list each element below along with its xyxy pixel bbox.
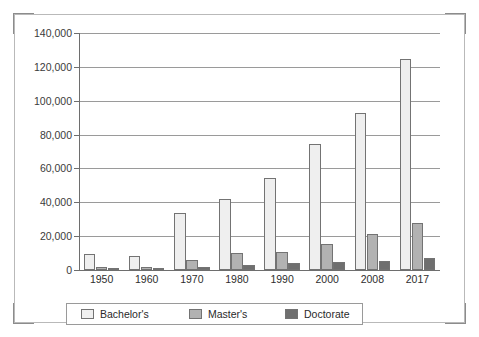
x-axis-tick-label: 1980 bbox=[225, 273, 248, 285]
y-axis-tick-label: 80,000 bbox=[40, 129, 72, 141]
bar[interactable] bbox=[321, 244, 333, 270]
bar[interactable] bbox=[186, 260, 198, 270]
bar[interactable] bbox=[141, 267, 153, 270]
chart-legend: Bachelor'sMaster'sDoctorate bbox=[66, 303, 363, 325]
masters-swatch-icon bbox=[189, 309, 202, 319]
bar[interactable] bbox=[108, 268, 120, 270]
bar[interactable] bbox=[400, 59, 412, 270]
bar[interactable] bbox=[288, 263, 300, 270]
bar[interactable] bbox=[243, 265, 255, 270]
legend-item[interactable]: Doctorate bbox=[285, 308, 350, 320]
x-axis-tick-label: 2017 bbox=[406, 273, 429, 285]
y-axis-tick-label: 20,000 bbox=[40, 230, 72, 242]
y-axis-tick-label: 60,000 bbox=[40, 162, 72, 174]
y-axis-tick bbox=[74, 270, 79, 271]
y-axis-tick-label: 100,000 bbox=[34, 95, 72, 107]
bar[interactable] bbox=[355, 113, 367, 270]
bar[interactable] bbox=[219, 199, 231, 270]
bar[interactable] bbox=[96, 267, 108, 270]
y-axis-tick-label: 0 bbox=[66, 264, 72, 276]
bar-group bbox=[309, 33, 345, 270]
x-axis-tick-label: 2000 bbox=[316, 273, 339, 285]
bar[interactable] bbox=[198, 267, 210, 270]
bar[interactable] bbox=[174, 213, 186, 270]
legend-label: Bachelor's bbox=[100, 308, 149, 320]
x-axis-tick-labels: 19501960197019801990200020082017 bbox=[79, 273, 440, 291]
x-axis-tick-label: 1990 bbox=[270, 273, 293, 285]
bar[interactable] bbox=[129, 256, 141, 270]
legend-label: Doctorate bbox=[304, 308, 350, 320]
bar[interactable] bbox=[231, 253, 243, 270]
y-axis-tick-label: 120,000 bbox=[34, 61, 72, 73]
bar[interactable] bbox=[84, 254, 96, 270]
bar[interactable] bbox=[412, 223, 424, 270]
x-axis-line bbox=[79, 270, 440, 271]
bar[interactable] bbox=[153, 268, 165, 270]
bachelors-swatch-icon bbox=[81, 309, 94, 319]
bar-group bbox=[355, 33, 391, 270]
doctorate-swatch-icon bbox=[285, 309, 298, 319]
y-axis-tick-labels: 020,00040,00060,00080,000100,000120,0001… bbox=[15, 33, 72, 271]
bar[interactable] bbox=[264, 178, 276, 270]
bar[interactable] bbox=[333, 262, 345, 270]
chart-figure: 020,00040,00060,00080,000100,000120,0001… bbox=[0, 0, 479, 337]
bar-group bbox=[219, 33, 255, 270]
x-axis-tick-label: 1950 bbox=[90, 273, 113, 285]
bar[interactable] bbox=[379, 261, 391, 270]
legend-label: Master's bbox=[208, 308, 247, 320]
plot-area bbox=[79, 33, 440, 270]
x-axis-tick-label: 2008 bbox=[361, 273, 384, 285]
chart-frame: 020,00040,00060,00080,000100,000120,0001… bbox=[14, 14, 465, 323]
x-axis-tick-label: 1960 bbox=[135, 273, 158, 285]
bar-group bbox=[264, 33, 300, 270]
y-axis-tick-label: 40,000 bbox=[40, 196, 72, 208]
bar-series-container bbox=[79, 33, 440, 270]
legend-item[interactable]: Master's bbox=[189, 308, 247, 320]
bar-group bbox=[174, 33, 210, 270]
bar[interactable] bbox=[424, 258, 436, 270]
legend-item[interactable]: Bachelor's bbox=[81, 308, 149, 320]
bar-group bbox=[129, 33, 165, 270]
bar-group bbox=[400, 33, 436, 270]
bar[interactable] bbox=[276, 252, 288, 270]
y-axis-tick-label: 140,000 bbox=[34, 27, 72, 39]
bar-group bbox=[84, 33, 120, 270]
bar[interactable] bbox=[367, 234, 379, 270]
bar[interactable] bbox=[309, 144, 321, 270]
x-axis-tick-label: 1970 bbox=[180, 273, 203, 285]
